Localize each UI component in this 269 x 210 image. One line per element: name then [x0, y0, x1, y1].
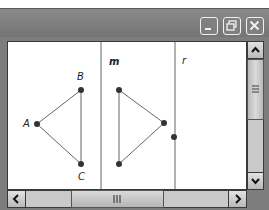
geometry-canvas[interactable]: A B C m r — [7, 41, 247, 190]
chevron-left-icon — [8, 191, 25, 207]
geometry-drawing — [8, 42, 246, 189]
label-r: r — [182, 56, 186, 66]
grip-icon — [248, 60, 263, 119]
horizontal-scroll-thumb[interactable] — [71, 190, 164, 208]
minimize-button[interactable] — [200, 17, 218, 35]
label-a: A — [23, 119, 30, 129]
scroll-right-button[interactable] — [228, 190, 247, 208]
scroll-left-button[interactable] — [7, 190, 26, 208]
vertical-scrollbar[interactable] — [247, 41, 264, 190]
point-b[interactable] — [78, 87, 84, 93]
chevron-right-icon — [229, 191, 246, 207]
label-b: B — [77, 72, 84, 82]
chevron-down-icon — [248, 173, 263, 189]
app-window: A B C m r — [0, 8, 269, 210]
label-m: m — [109, 57, 119, 67]
point-on-r[interactable] — [171, 134, 177, 140]
point-a-prime[interactable] — [161, 120, 167, 126]
point-c[interactable] — [78, 161, 84, 167]
title-bar[interactable] — [0, 9, 269, 37]
scroll-up-button[interactable] — [247, 41, 264, 59]
triangle-abc[interactable] — [37, 90, 81, 164]
label-c: C — [78, 172, 85, 182]
triangle-reflected[interactable] — [119, 90, 164, 164]
vertical-scroll-thumb[interactable] — [247, 59, 264, 120]
horizontal-scrollbar[interactable] — [7, 190, 247, 208]
point-c-prime[interactable] — [116, 161, 122, 167]
close-button[interactable] — [246, 17, 264, 35]
restore-button[interactable] — [223, 17, 241, 35]
scroll-down-button[interactable] — [247, 172, 264, 190]
grip-icon — [72, 191, 163, 207]
close-icon — [247, 18, 262, 33]
restore-icon — [224, 18, 239, 33]
point-b-prime[interactable] — [116, 87, 122, 93]
minimize-icon — [201, 18, 216, 33]
chevron-up-icon — [248, 42, 263, 58]
point-a[interactable] — [34, 121, 40, 127]
